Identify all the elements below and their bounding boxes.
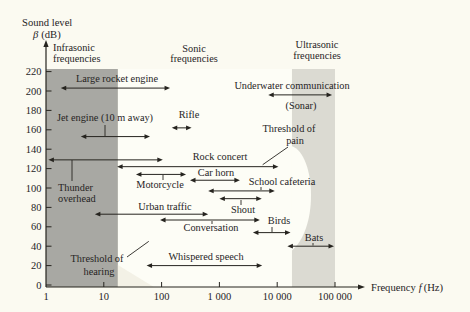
item-label: Large rocket engine (76, 73, 159, 84)
y-tick-label: 80 (31, 202, 42, 213)
hz-unit: (Hz) (424, 282, 444, 294)
region-label-infrasonic: Infrasonicfrequencies (53, 42, 100, 64)
x-tick-label: 100 (154, 291, 170, 302)
y-tick-label: 220 (26, 66, 42, 77)
y-tick-label: 180 (26, 105, 42, 116)
item-label-line: Thunder (58, 182, 93, 193)
item-label: Conversation (184, 222, 239, 233)
y-axis-title: Sound level (22, 17, 72, 28)
y-tick-label: 120 (26, 163, 42, 174)
beta-symbol: β (32, 29, 39, 40)
annotation-label-line: pain (286, 135, 304, 146)
annotation-label-line: hearing (84, 266, 115, 277)
item-label: Car horn (198, 167, 234, 178)
item-label: Rock concert (193, 151, 248, 162)
x-tick-label: 10 (99, 291, 110, 302)
y-tick-label: 0 (36, 280, 41, 291)
item-motorcycle: Motorcycle (136, 172, 186, 190)
item-label: Birds (268, 215, 290, 226)
chart-root: 0204060801001201401601802002201101001 00… (26, 39, 365, 302)
y-tick-label: 60 (31, 221, 42, 232)
x-axis-arrowhead (358, 284, 365, 289)
item-sublabel: (Sonar) (286, 100, 317, 112)
item-label: Whispered speech (168, 251, 244, 262)
y-tick-label: 100 (26, 183, 42, 194)
item-label: Bats (305, 232, 323, 243)
item-label: Motorcycle (136, 179, 184, 190)
y-tick-label: 160 (26, 124, 42, 135)
item-car-horn: Car horn (190, 167, 240, 183)
item-label-line: overhead (58, 193, 97, 204)
y-tick-label: 20 (31, 260, 42, 271)
db-unit: (dB) (41, 29, 61, 41)
y-tick-label: 200 (26, 86, 42, 97)
item-label: Shout (231, 204, 255, 215)
item-label: Rifle (179, 109, 200, 120)
x-axis-title: Frequencyf(Hz) (371, 282, 444, 294)
x-tick-label: 10 000 (263, 291, 292, 302)
region-label-line: Ultrasonic (296, 39, 339, 50)
region-label-line: Infrasonic (53, 42, 95, 53)
region-label-line: frequencies (170, 53, 217, 64)
annotation-label-line: Threshold of (263, 123, 316, 134)
y-axis-title-units: β(dB) (32, 29, 61, 41)
x-tick-label: 1 (43, 291, 48, 302)
item-large-rocket-engine: Large rocket engine (61, 73, 170, 90)
region-label-ultrasonic: Ultrasonicfrequencies (293, 39, 340, 61)
x-tick-label: 1 000 (208, 291, 232, 302)
region-label-sonic: Sonicfrequencies (170, 43, 217, 64)
y-axis-arrowhead (43, 40, 48, 47)
item-label: Underwater communication (234, 80, 349, 91)
annotation-label-line: Threshold of (71, 253, 124, 264)
region-label-line: frequencies (293, 50, 340, 61)
chart-canvas: 0204060801001201401601802002201101001 00… (0, 0, 470, 312)
frequency-word: Frequency (371, 282, 416, 293)
sound-level-frequency-figure: 0204060801001201401601802002201101001 00… (0, 0, 470, 312)
item-label: School cafeteria (249, 176, 316, 187)
item-label: Urban traffic (138, 201, 192, 212)
y-tick-label: 140 (26, 144, 42, 155)
x-tick-label: 100 000 (318, 291, 352, 302)
y-tick-label: 40 (31, 241, 42, 252)
item-label: Jet engine (10 m away) (57, 112, 153, 124)
region-label-line: frequencies (53, 53, 100, 64)
